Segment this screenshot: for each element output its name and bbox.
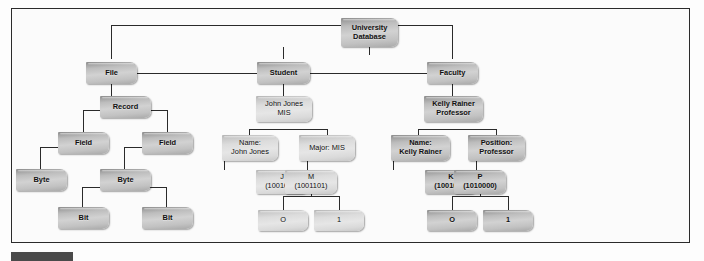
node-faculty[interactable]: Faculty	[427, 62, 478, 84]
connector-bus-to-faculty	[452, 25, 453, 59]
connector-faculty-record-split	[418, 129, 496, 130]
node-student-record[interactable]: John Jones MIS	[256, 96, 312, 122]
caption-label-bar	[11, 252, 73, 261]
node-field-left[interactable]: Field	[58, 132, 109, 154]
connector-byte-to-bit-left	[82, 187, 83, 207]
connector-field-left-to-byte	[40, 147, 41, 169]
node-faculty-field-name[interactable]: Name: Kelly Rainer	[391, 135, 450, 161]
connector-faculty-to-record	[452, 84, 453, 96]
connector-student-record-split	[249, 129, 327, 130]
node-byte-right[interactable]: Byte	[100, 169, 151, 191]
node-bit-right[interactable]: Bit	[142, 207, 193, 229]
connector-faculty-bit-0	[452, 196, 453, 210]
node-field-right[interactable]: Field	[142, 132, 193, 154]
connector-root-stem	[369, 47, 370, 55]
connector-faculty-byte-split	[452, 196, 508, 197]
connector-file-to-record	[111, 84, 112, 96]
connector-record-to-field-left	[83, 110, 84, 132]
connector-field-right-to-byte	[124, 147, 125, 169]
node-student-byte-m[interactable]: M (1001101)	[285, 170, 337, 194]
connector-byte-to-bit-right	[166, 187, 167, 207]
node-faculty-bit-1[interactable]: 1	[483, 210, 533, 231]
connector-student-faculty	[310, 73, 428, 74]
node-student-bit-1[interactable]: 1	[314, 210, 364, 231]
connector-bus-to-file	[111, 25, 112, 59]
connector-level2-bus	[111, 25, 453, 26]
node-faculty-record[interactable]: Kelly Rainer Professor	[424, 96, 483, 122]
node-faculty-byte-p[interactable]: P (1010000)	[454, 170, 506, 194]
node-student-field-name[interactable]: Name: John Jones	[222, 135, 278, 161]
connector-student-bit-1	[339, 196, 340, 210]
connector-student-to-record	[283, 84, 284, 96]
node-faculty-bit-0[interactable]: O	[427, 210, 477, 231]
node-byte-left[interactable]: Byte	[16, 169, 67, 191]
node-university-database[interactable]: University Database	[341, 18, 398, 47]
node-student[interactable]: Student	[257, 62, 310, 84]
node-student-field-major[interactable]: Major: MIS	[299, 135, 355, 161]
node-faculty-field-position[interactable]: Position: Professor	[468, 135, 525, 161]
connector-faculty-bit-1	[508, 196, 509, 210]
node-file[interactable]: File	[86, 62, 137, 84]
connector-record-to-field-right	[167, 110, 168, 132]
connector-student-bit-0	[283, 196, 284, 210]
connector-root-to-student	[283, 47, 284, 59]
node-bit-left[interactable]: Bit	[58, 207, 109, 229]
node-record[interactable]: Record	[100, 96, 151, 118]
figure-canvas: University Database File Student Faculty…	[0, 0, 704, 261]
connector-student-byte-split	[283, 196, 339, 197]
node-student-bit-0[interactable]: O	[258, 210, 308, 231]
connector-file-student	[137, 73, 258, 74]
